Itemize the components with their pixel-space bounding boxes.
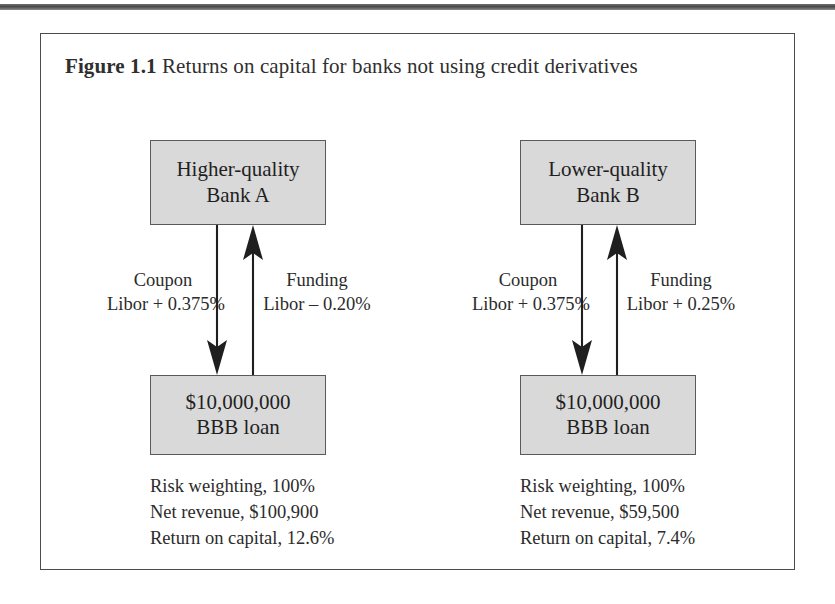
coupon-b-rate: Libor + 0.375% — [472, 292, 584, 316]
stats-a-return-on-capital: Return on capital, 12.6% — [150, 526, 334, 552]
bank-a-line1: Higher-quality — [176, 157, 299, 182]
bank-b-line2: Bank B — [576, 183, 640, 208]
loan-a-line1: $10,000,000 — [186, 390, 291, 415]
funding-a-rate: Libor – 0.20% — [253, 292, 381, 316]
stats-b-risk-weighting: Risk weighting, 100% — [520, 474, 695, 500]
stats-a: Risk weighting, 100% Net revenue, $100,9… — [150, 474, 334, 552]
funding-a-title: Funding — [253, 268, 381, 292]
loan-a-box: $10,000,000 BBB loan — [150, 375, 326, 455]
loan-b-box: $10,000,000 BBB loan — [520, 375, 696, 455]
loan-b-line2: BBB loan — [566, 415, 649, 440]
page-top-rule — [0, 4, 835, 10]
figure-label: Figure 1.1 — [65, 54, 162, 78]
coupon-a-title: Coupon — [107, 268, 219, 292]
stats-b-net-revenue: Net revenue, $59,500 — [520, 500, 695, 526]
funding-b-label: Funding Libor + 0.25% — [617, 268, 745, 317]
coupon-b-label: Coupon Libor + 0.375% — [472, 268, 584, 317]
loan-a-line2: BBB loan — [196, 415, 279, 440]
funding-a-label: Funding Libor – 0.20% — [253, 268, 381, 317]
funding-b-title: Funding — [617, 268, 745, 292]
bank-a-line2: Bank A — [206, 183, 270, 208]
funding-b-rate: Libor + 0.25% — [617, 292, 745, 316]
stats-a-net-revenue: Net revenue, $100,900 — [150, 500, 334, 526]
figure-caption: Figure 1.1 Returns on capital for banks … — [65, 54, 638, 79]
coupon-b-title: Coupon — [472, 268, 584, 292]
stats-b-return-on-capital: Return on capital, 7.4% — [520, 526, 695, 552]
stats-b: Risk weighting, 100% Net revenue, $59,50… — [520, 474, 695, 552]
coupon-a-rate: Libor + 0.375% — [107, 292, 219, 316]
figure-caption-text: Returns on capital for banks not using c… — [162, 54, 638, 78]
bank-b-line1: Lower-quality — [548, 157, 668, 182]
bank-b-box: Lower-quality Bank B — [520, 140, 696, 225]
loan-b-line1: $10,000,000 — [556, 390, 661, 415]
stats-a-risk-weighting: Risk weighting, 100% — [150, 474, 334, 500]
bank-a-box: Higher-quality Bank A — [150, 140, 326, 225]
coupon-a-label: Coupon Libor + 0.375% — [107, 268, 219, 317]
